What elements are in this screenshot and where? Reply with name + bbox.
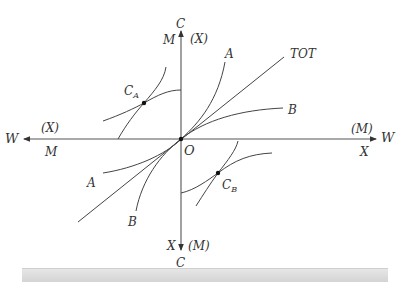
offer-curve-a (103, 62, 225, 173)
offer-curve-b (136, 108, 283, 211)
axis-left-below-label: M (44, 145, 58, 159)
axis-bottom-left-label: X (166, 239, 176, 253)
curve-a-upper-label: A (224, 47, 234, 61)
axis-top-right-label: (X) (190, 32, 208, 46)
tot-label: TOT (290, 47, 317, 61)
axis-top-left-label: M (162, 33, 176, 47)
axis-right-above-label: (M) (351, 122, 373, 136)
bottom-caption-bar (22, 268, 388, 282)
axis-right-end-label: W (381, 130, 396, 145)
axis-top-end-label: C (176, 17, 185, 31)
curve-a-lower-label: A (86, 176, 96, 190)
point-cb (216, 171, 220, 175)
axis-right-below-label: X (359, 145, 369, 159)
origin-point (179, 137, 183, 141)
point-cb-label: CB (222, 178, 237, 194)
axis-left-end-label: W (5, 131, 20, 146)
curve-b-upper-label: B (287, 103, 297, 117)
axis-left-above-label: (X) (41, 121, 59, 135)
point-ca (142, 101, 146, 105)
axis-bottom-right-label: (M) (188, 239, 210, 253)
curve-b-lower-label: B (127, 215, 137, 229)
point-ca-label: CA (124, 84, 139, 100)
origin-label: O (184, 143, 195, 158)
